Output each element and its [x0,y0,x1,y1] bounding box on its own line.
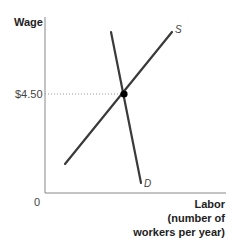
equilibrium-point [120,90,127,97]
x-axis-label-line-2: (number of [133,211,225,225]
x-axis-label: Labor (number of workers per year) [133,197,225,239]
x-axis-label-line-3: workers per year) [133,225,225,239]
origin-label: 0 [34,196,40,208]
demand-label: D [144,178,151,189]
x-axis-label-line-1: Labor [133,197,225,211]
y-tick-wage: $4.50 [15,88,43,100]
y-axis-label: Wage [14,16,43,28]
supply-label: S [175,24,182,35]
supply-curve [65,32,172,164]
demand-curve [111,32,141,183]
